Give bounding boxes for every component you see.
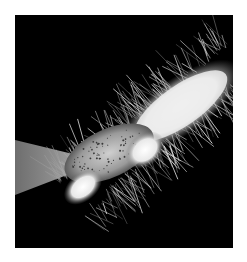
micrograph-image [15,15,233,248]
